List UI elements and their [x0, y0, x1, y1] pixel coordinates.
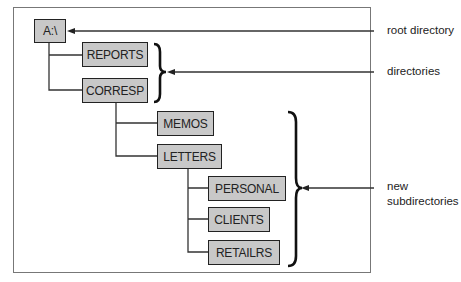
node-memos: MEMOS	[157, 111, 214, 136]
node-retailrs: RETAILRS	[208, 240, 280, 265]
label-new: new	[387, 179, 408, 193]
node-corresp: CORRESP	[82, 78, 148, 103]
node-clients: CLIENTS	[208, 207, 270, 232]
label-subdirectories: subdirectories	[387, 194, 459, 208]
node-reports: REPORTS	[82, 42, 148, 67]
label-root-directory: root directory	[387, 23, 454, 37]
node-personal: PERSONAL	[208, 176, 286, 201]
node-root: A:\	[34, 19, 66, 43]
label-directories: directories	[387, 64, 440, 78]
node-letters: LETTERS	[157, 144, 222, 169]
